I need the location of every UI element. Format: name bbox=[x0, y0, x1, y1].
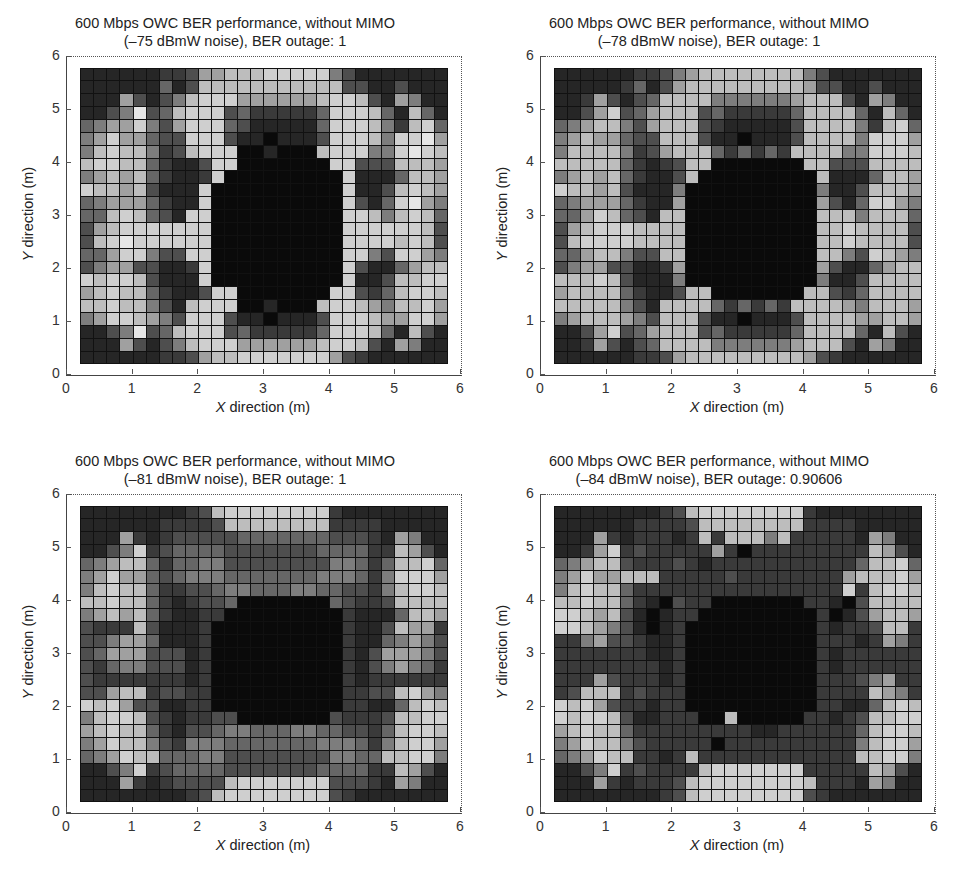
heatmap-cell bbox=[660, 184, 672, 196]
heatmap-cell bbox=[382, 738, 394, 750]
heatmap-cell bbox=[435, 159, 447, 171]
heatmap-cell bbox=[568, 790, 580, 802]
heatmap-cell bbox=[909, 635, 921, 647]
heatmap-cell bbox=[843, 326, 855, 338]
heatmap-cell bbox=[120, 236, 132, 248]
heatmap-cell bbox=[738, 519, 750, 531]
x-tick-label: 5 bbox=[390, 818, 398, 834]
heatmap-cell bbox=[173, 622, 185, 634]
heatmap-cell bbox=[555, 790, 567, 802]
heatmap-cell bbox=[395, 764, 407, 776]
heatmap-cell bbox=[712, 635, 724, 647]
heatmap-cell bbox=[330, 725, 342, 737]
heatmap-cell bbox=[830, 790, 842, 802]
heatmap-cell bbox=[134, 171, 146, 183]
heatmap-cell bbox=[712, 725, 724, 737]
heatmap-cell bbox=[608, 532, 620, 544]
heatmap-cell bbox=[804, 120, 816, 132]
heatmap-cell bbox=[594, 597, 606, 609]
heatmap-cell bbox=[238, 532, 250, 544]
heatmap-cell bbox=[568, 674, 580, 686]
heatmap-cell bbox=[621, 326, 633, 338]
heatmap-cell bbox=[594, 712, 606, 724]
heatmap-cell bbox=[752, 712, 764, 724]
heatmap-cell bbox=[830, 687, 842, 699]
heatmap-cell bbox=[343, 597, 355, 609]
heatmap-cell bbox=[264, 712, 276, 724]
heatmap-cell bbox=[317, 609, 329, 621]
heatmap-cell bbox=[869, 545, 881, 557]
heatmap-cell bbox=[555, 339, 567, 351]
heatmap-cell bbox=[251, 687, 263, 699]
heatmap-cell bbox=[278, 236, 290, 248]
heatmap-cell bbox=[94, 223, 106, 235]
heatmap-cell bbox=[869, 210, 881, 222]
heatmap-cell bbox=[634, 584, 646, 596]
heatmap-cell bbox=[186, 635, 198, 647]
heatmap-cell bbox=[686, 571, 698, 583]
heatmap-cell bbox=[278, 107, 290, 119]
heatmap-cell bbox=[251, 558, 263, 570]
heatmap-cell bbox=[608, 210, 620, 222]
heatmap-cell bbox=[291, 146, 303, 158]
heatmap-cell bbox=[422, 597, 434, 609]
heatmap-cell bbox=[594, 622, 606, 634]
heatmap-cell bbox=[395, 635, 407, 647]
heatmap-cell bbox=[765, 738, 777, 750]
heatmap-cell bbox=[409, 532, 421, 544]
heatmap-cell bbox=[804, 274, 816, 286]
x-tick-label: 6 bbox=[930, 818, 938, 834]
heatmap-cell bbox=[356, 171, 368, 183]
heatmap-cell bbox=[909, 790, 921, 802]
heatmap-cell bbox=[409, 609, 421, 621]
heatmap-cell bbox=[225, 171, 237, 183]
x-tick bbox=[868, 807, 869, 812]
heatmap-cell bbox=[869, 197, 881, 209]
heatmap-cell bbox=[186, 171, 198, 183]
heatmap-cell bbox=[765, 184, 777, 196]
heatmap-cell bbox=[869, 661, 881, 673]
heatmap-cell bbox=[856, 571, 868, 583]
heatmap-cell bbox=[264, 210, 276, 222]
heatmap-cell bbox=[778, 507, 790, 519]
heatmap-cell bbox=[435, 262, 447, 274]
heatmap-cell bbox=[568, 197, 580, 209]
heatmap-cell bbox=[186, 69, 198, 81]
heatmap-cell bbox=[94, 622, 106, 634]
heatmap-cell bbox=[395, 519, 407, 531]
heatmap-cell bbox=[199, 558, 211, 570]
heatmap-cell bbox=[356, 545, 368, 557]
heatmap-cell bbox=[435, 287, 447, 299]
heatmap-cell bbox=[738, 738, 750, 750]
heatmap-cell bbox=[568, 712, 580, 724]
heatmap-cell bbox=[173, 674, 185, 686]
heatmap-cell bbox=[304, 300, 316, 312]
heatmap-cell bbox=[752, 635, 764, 647]
heatmap-cell bbox=[869, 571, 881, 583]
heatmap-cell bbox=[896, 197, 908, 209]
heatmap-cell bbox=[594, 171, 606, 183]
heatmap-cell bbox=[291, 597, 303, 609]
heatmap-cell bbox=[395, 133, 407, 145]
heatmap-cell bbox=[581, 584, 593, 596]
heatmap-cell bbox=[356, 159, 368, 171]
heatmap-cell bbox=[330, 507, 342, 519]
heatmap-cell bbox=[81, 69, 93, 81]
heatmap-cell bbox=[356, 210, 368, 222]
heatmap-cell bbox=[304, 777, 316, 789]
heatmap-cell bbox=[608, 313, 620, 325]
heatmap-cell bbox=[147, 339, 159, 351]
heatmap-cell bbox=[608, 236, 620, 248]
heatmap-cell bbox=[409, 597, 421, 609]
heatmap-cell bbox=[568, 609, 580, 621]
heatmap-cell bbox=[343, 249, 355, 261]
heatmap-cell bbox=[81, 120, 93, 132]
heatmap-cell bbox=[791, 738, 803, 750]
heatmap-cell bbox=[369, 171, 381, 183]
heatmap-cell bbox=[81, 262, 93, 274]
heatmap-cell bbox=[712, 107, 724, 119]
heatmap-cell bbox=[395, 622, 407, 634]
heatmap-cell bbox=[330, 674, 342, 686]
heatmap-cell bbox=[107, 609, 119, 621]
heatmap-cell bbox=[120, 133, 132, 145]
